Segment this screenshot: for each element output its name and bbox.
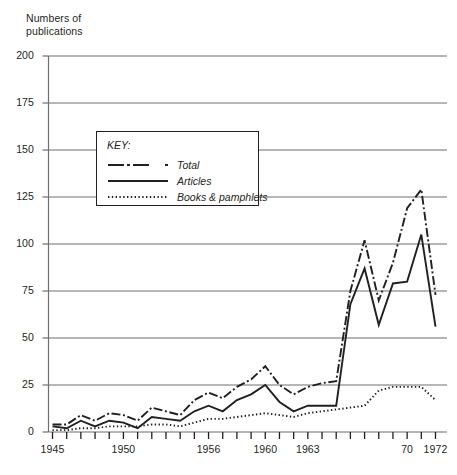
y-tick-label: 100 (0, 237, 34, 249)
legend-label-books: Books & pamphlets (177, 191, 267, 203)
series-line-articles (53, 235, 436, 429)
y-tick-label: 125 (0, 190, 34, 202)
x-tick-label: 1972 (414, 443, 457, 455)
x-tick-label: 1956 (187, 443, 231, 455)
y-tick-label: 175 (0, 96, 34, 108)
y-tick-label: 200 (0, 49, 34, 61)
gridlines-group (49, 56, 448, 385)
y-tick-label: 0 (0, 425, 34, 437)
legend: KEY: Total Articles Books & pamphlets (96, 131, 259, 206)
series-line-total (53, 189, 436, 424)
data-series-group (53, 189, 436, 430)
x-tick-label: 1963 (286, 443, 330, 455)
x-tick-marks-group (53, 432, 436, 439)
publications-line-chart: Numbers of publications 2001751501251007… (0, 0, 457, 475)
legend-title: KEY: (107, 139, 131, 151)
legend-item-books: Books & pamphlets (107, 190, 252, 204)
legend-label-articles: Articles (177, 175, 211, 187)
y-tick-label: 50 (0, 331, 34, 343)
x-tick-label: 1960 (243, 443, 287, 455)
legend-label-total: Total (177, 159, 199, 171)
legend-item-articles: Articles (107, 174, 252, 188)
legend-swatch-articles (107, 174, 169, 188)
y-tick-marks-group (43, 56, 49, 432)
legend-swatch-total (107, 158, 169, 172)
x-tick-label: 1950 (101, 443, 145, 455)
y-tick-label: 75 (0, 284, 34, 296)
y-tick-label: 25 (0, 378, 34, 390)
x-tick-label: 1945 (31, 443, 75, 455)
legend-swatch-books (107, 190, 169, 204)
series-line-books-pamphlets (53, 387, 436, 430)
legend-item-total: Total (107, 158, 252, 172)
y-tick-label: 150 (0, 143, 34, 155)
plot-canvas (0, 0, 457, 475)
